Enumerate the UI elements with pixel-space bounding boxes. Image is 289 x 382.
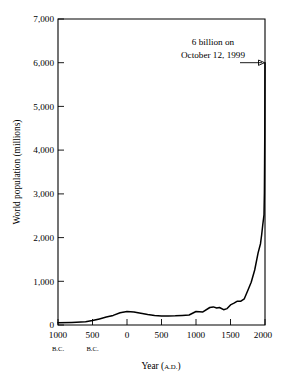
- y-tick-label-7000: 7,000: [33, 14, 54, 24]
- population-chart-figure: 0 1,000 2,000 3,000 4,000 5,000 6,000 7,…: [0, 0, 289, 382]
- x-axis-title-word: Year (: [141, 361, 164, 372]
- chart-canvas: 0 1,000 2,000 3,000 4,000 5,000 6,000 7,…: [0, 0, 289, 382]
- y-tick-label-3000: 3,000: [33, 189, 54, 199]
- x-tick-label-1000bc: 1000: [49, 330, 68, 340]
- x-tick-label-1500: 1500: [221, 330, 240, 340]
- x-tick-label-500bc: 500: [86, 330, 100, 340]
- era-label-500bc: B.C.: [86, 345, 98, 352]
- x-tick-label-500: 500: [155, 330, 169, 340]
- annotation-line-2: October 12, 1999: [181, 50, 245, 60]
- era-label-1000bc: B.C.: [52, 345, 64, 352]
- x-tick-label-1000: 1000: [187, 330, 206, 340]
- y-tick-label-1000: 1,000: [33, 277, 54, 287]
- x-axis-title-era: A.D.: [164, 363, 178, 370]
- x-axis-title-close: ): [177, 361, 180, 372]
- y-tick-label-5000: 5,000: [33, 102, 54, 112]
- y-axis-title: World population (millions): [12, 120, 23, 225]
- x-tick-label-0: 0: [125, 330, 130, 340]
- y-tick-label-4000: 4,000: [33, 145, 54, 155]
- y-tick-label-0: 0: [49, 320, 54, 330]
- annotation-line-1: 6 billion on: [192, 37, 235, 47]
- y-axis-title-text: World population (millions): [12, 120, 23, 225]
- x-tick-label-2000: 2000: [254, 330, 273, 340]
- y-tick-label-2000: 2,000: [33, 233, 54, 243]
- y-tick-label-6000: 6,000: [33, 58, 54, 68]
